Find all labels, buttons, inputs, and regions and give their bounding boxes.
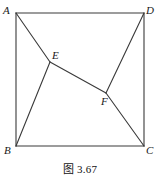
vertex-label-b: B: [4, 145, 11, 156]
diagram-canvas: [0, 0, 160, 155]
segment-FC: [106, 93, 144, 146]
segment-EF: [50, 62, 106, 93]
vertex-label-e: E: [52, 50, 59, 61]
segment-BE: [16, 62, 50, 146]
figure-caption: 图 3.67: [0, 160, 160, 176]
vertex-label-a: A: [3, 5, 10, 16]
vertex-label-c: C: [146, 145, 153, 156]
geometry-figure: A D B C E F 图 3.67: [0, 0, 160, 181]
segment-AE: [16, 13, 50, 62]
vertex-label-d: D: [146, 5, 154, 16]
vertex-label-f: F: [101, 96, 108, 107]
segment-FD: [106, 13, 144, 93]
segment-group: [16, 13, 144, 146]
